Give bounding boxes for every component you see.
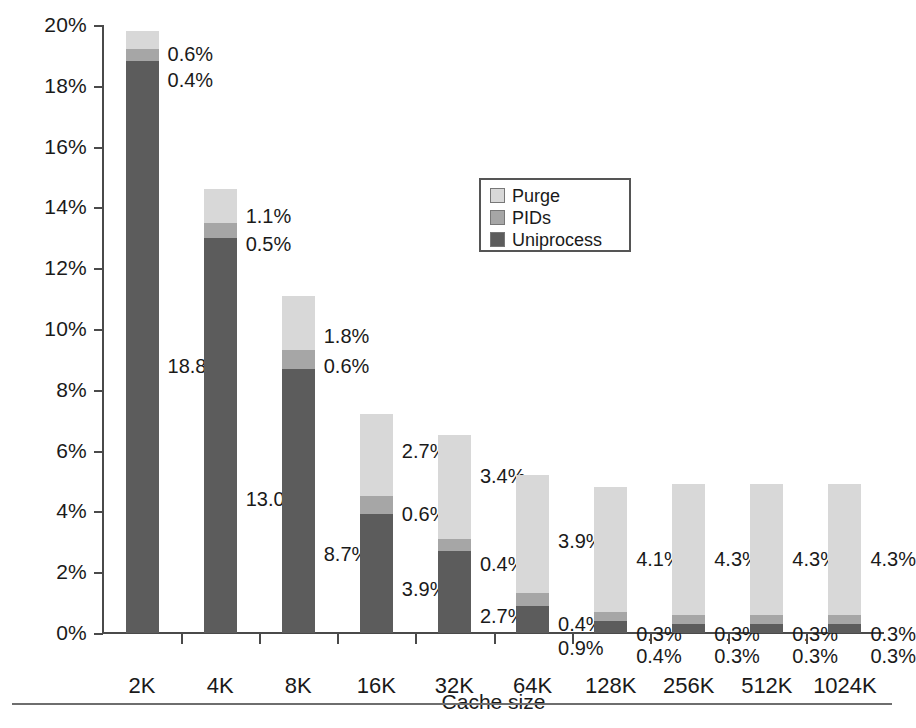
bar-segment-uniprocess[interactable] bbox=[282, 369, 315, 633]
x-tick-mark bbox=[728, 634, 730, 644]
y-tick-mark bbox=[94, 451, 103, 453]
y-tick-label: 20% bbox=[44, 13, 87, 37]
bar-segment-purge[interactable] bbox=[828, 484, 861, 615]
y-tick-label: 16% bbox=[44, 135, 87, 159]
bar-segment-uniprocess[interactable] bbox=[204, 238, 237, 633]
value-label-purge: 0.6% bbox=[168, 43, 214, 66]
bar-1024K[interactable] bbox=[828, 484, 861, 633]
y-tick-mark bbox=[94, 511, 103, 513]
bar-segment-uniprocess[interactable] bbox=[594, 621, 627, 633]
y-tick-mark bbox=[94, 25, 103, 27]
bar-segment-uniprocess[interactable] bbox=[360, 514, 393, 633]
bar-segment-purge[interactable] bbox=[360, 414, 393, 496]
bar-segment-pids[interactable] bbox=[438, 539, 471, 551]
y-tick-mark bbox=[94, 86, 103, 88]
bar-128K[interactable] bbox=[594, 487, 627, 633]
y-tick-label: 4% bbox=[56, 499, 87, 523]
x-tick-mark bbox=[494, 634, 496, 644]
y-tick-label: 6% bbox=[56, 439, 87, 463]
bar-8K[interactable] bbox=[282, 296, 315, 633]
legend-swatch-icon bbox=[490, 232, 505, 247]
value-label-pids: 0.5% bbox=[246, 233, 292, 256]
value-label-pids: 0.4% bbox=[168, 69, 214, 92]
bar-segment-uniprocess[interactable] bbox=[126, 61, 159, 633]
bar-segment-pids[interactable] bbox=[360, 496, 393, 514]
bar-segment-purge[interactable] bbox=[594, 487, 627, 612]
y-tick-label: 14% bbox=[44, 195, 87, 219]
x-axis-category-label: 1024K bbox=[795, 673, 895, 699]
bar-segment-purge[interactable] bbox=[282, 296, 315, 351]
x-tick-mark bbox=[259, 634, 261, 644]
x-tick-mark bbox=[337, 634, 339, 644]
bar-2K[interactable] bbox=[126, 31, 159, 633]
y-tick-label: 12% bbox=[44, 256, 87, 280]
value-label-purge: 1.1% bbox=[246, 205, 292, 228]
value-label-purge: 4.3% bbox=[870, 548, 916, 571]
x-tick-mark bbox=[572, 634, 574, 644]
value-label-uniprocess: 0.4% bbox=[636, 645, 682, 668]
legend-item-purge[interactable]: Purge bbox=[490, 185, 629, 206]
x-tick-mark bbox=[806, 634, 808, 644]
plot-area: 20%18%16%14%12%10%8%6%4%2%0%2K0.6%0.4%18… bbox=[103, 25, 884, 633]
value-label-uniprocess: 0.3% bbox=[792, 645, 838, 668]
bar-64K[interactable] bbox=[516, 475, 549, 633]
value-label-pids: 0.3% bbox=[870, 623, 916, 646]
y-tick-mark bbox=[94, 147, 103, 149]
value-label-uniprocess: 0.3% bbox=[714, 645, 760, 668]
y-tick-mark bbox=[94, 572, 103, 574]
chart-legend: PurgePIDsUniprocess bbox=[479, 178, 631, 252]
y-tick-label: 8% bbox=[56, 378, 87, 402]
x-tick-mark bbox=[181, 634, 183, 644]
bar-segment-purge[interactable] bbox=[204, 189, 237, 222]
legend-item-pids[interactable]: PIDs bbox=[490, 207, 629, 228]
x-tick-mark bbox=[650, 634, 652, 644]
bar-segment-pids[interactable] bbox=[516, 593, 549, 605]
bar-256K[interactable] bbox=[672, 484, 705, 633]
bar-512K[interactable] bbox=[750, 484, 783, 633]
bar-segment-purge[interactable] bbox=[516, 475, 549, 594]
bar-segment-pids[interactable] bbox=[594, 612, 627, 621]
legend-label: Purge bbox=[512, 187, 560, 205]
bar-segment-uniprocess[interactable] bbox=[750, 624, 783, 633]
bar-segment-uniprocess[interactable] bbox=[438, 551, 471, 633]
bar-16K[interactable] bbox=[360, 414, 393, 633]
y-tick-label: 18% bbox=[44, 74, 87, 98]
y-tick-label: 2% bbox=[56, 560, 87, 584]
bar-segment-pids[interactable] bbox=[204, 223, 237, 238]
value-label-purge: 1.8% bbox=[324, 325, 370, 348]
bar-segment-pids[interactable] bbox=[672, 615, 705, 624]
bar-segment-purge[interactable] bbox=[672, 484, 705, 615]
value-label-uniprocess: 0.9% bbox=[558, 637, 604, 660]
bar-segment-pids[interactable] bbox=[282, 350, 315, 368]
x-tick-mark bbox=[415, 634, 417, 644]
y-axis-title: Miss rate bbox=[0, 269, 4, 354]
y-tick-label: 10% bbox=[44, 317, 87, 341]
bar-segment-pids[interactable] bbox=[126, 49, 159, 61]
legend-swatch-icon bbox=[490, 210, 505, 225]
legend-swatch-icon bbox=[490, 188, 505, 203]
bar-segment-pids[interactable] bbox=[828, 615, 861, 624]
value-label-pids: 0.6% bbox=[324, 355, 370, 378]
bar-4K[interactable] bbox=[204, 189, 237, 633]
y-tick-mark bbox=[94, 207, 103, 209]
bar-segment-pids[interactable] bbox=[750, 615, 783, 624]
bar-segment-uniprocess[interactable] bbox=[516, 606, 549, 633]
legend-item-uniprocess[interactable]: Uniprocess bbox=[490, 229, 629, 250]
value-label-uniprocess: 0.3% bbox=[870, 645, 916, 668]
y-tick-label: 0% bbox=[56, 621, 87, 645]
bar-segment-purge[interactable] bbox=[438, 435, 471, 538]
y-tick-mark bbox=[94, 268, 103, 270]
y-tick-mark bbox=[94, 390, 103, 392]
y-tick-mark bbox=[94, 329, 103, 331]
legend-label: Uniprocess bbox=[512, 231, 602, 249]
bar-segment-uniprocess[interactable] bbox=[828, 624, 861, 633]
bar-segment-uniprocess[interactable] bbox=[672, 624, 705, 633]
bar-segment-purge[interactable] bbox=[750, 484, 783, 615]
caption-divider bbox=[12, 703, 892, 705]
bar-segment-purge[interactable] bbox=[126, 31, 159, 49]
bar-32K[interactable] bbox=[438, 435, 471, 633]
y-tick-mark bbox=[94, 633, 103, 635]
legend-label: PIDs bbox=[512, 209, 551, 227]
